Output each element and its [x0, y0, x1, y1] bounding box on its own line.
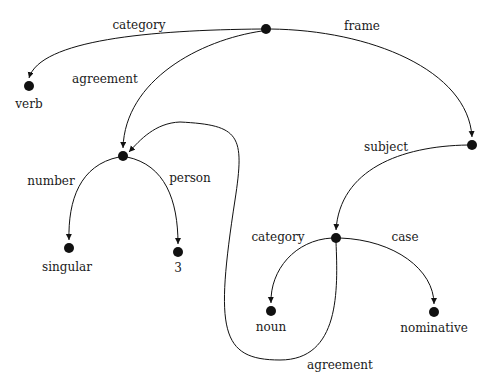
edge-label: person — [169, 171, 211, 185]
node-label: 3 — [174, 261, 182, 275]
edge-agreement — [123, 31, 262, 148]
edge-subject — [336, 145, 468, 230]
node-subj — [331, 233, 341, 243]
node-nom — [429, 307, 439, 317]
node-label: singular — [42, 260, 92, 274]
edge-number — [69, 157, 119, 240]
edge-label: subject — [364, 140, 408, 154]
node-agr — [118, 151, 128, 161]
edge-frame — [270, 29, 472, 137]
edge-label: number — [27, 174, 74, 188]
edge-label: agreement — [307, 358, 373, 372]
edge-label: category — [112, 18, 165, 32]
edge-case — [340, 238, 434, 304]
node-sing — [64, 243, 74, 253]
node-root — [261, 24, 271, 34]
edge-category — [29, 29, 262, 78]
edge-label: agreement — [72, 72, 138, 86]
edge-label: case — [391, 230, 418, 244]
node-three — [173, 247, 183, 257]
node-noun — [266, 306, 276, 316]
edge-agreement — [129, 122, 337, 360]
node-label: noun — [256, 320, 286, 334]
edge-label: category — [251, 230, 304, 244]
node-verb — [24, 81, 34, 91]
node-label: verb — [15, 97, 42, 111]
edge-category — [271, 238, 332, 303]
node-label: nominative — [400, 321, 468, 335]
node-frame — [467, 140, 477, 150]
edge-label: frame — [344, 19, 380, 33]
